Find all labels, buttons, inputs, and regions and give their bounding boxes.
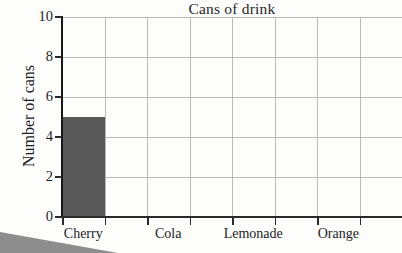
y-tick-mark bbox=[55, 16, 62, 18]
x-tick-label-orange: Orange bbox=[288, 226, 388, 242]
y-tick-mark bbox=[55, 176, 62, 178]
gridline-vertical bbox=[105, 17, 106, 217]
y-tick-mark bbox=[55, 216, 62, 218]
gridline-vertical bbox=[317, 17, 318, 217]
y-tick-label: 6 bbox=[13, 88, 53, 105]
x-tick-mark bbox=[62, 218, 64, 225]
x-tick-mark bbox=[190, 218, 192, 225]
y-tick-label: 10 bbox=[13, 8, 53, 25]
x-tick-mark bbox=[275, 218, 277, 225]
bar-cherry bbox=[62, 117, 105, 217]
chart-title: Cans of drink bbox=[62, 0, 402, 18]
y-tick-label: 4 bbox=[13, 128, 53, 145]
y-tick-label: 0 bbox=[13, 208, 53, 225]
x-tick-mark bbox=[360, 218, 362, 225]
plot-area bbox=[62, 17, 402, 217]
y-tick-label: 8 bbox=[13, 48, 53, 65]
x-tick-mark bbox=[317, 218, 319, 225]
bar-chart-screenshot: Cans of drink Number of cans 0246810 Che… bbox=[0, 0, 402, 253]
gridline-vertical bbox=[360, 17, 361, 217]
y-axis-line bbox=[61, 16, 63, 218]
x-tick-mark bbox=[105, 218, 107, 225]
gridline-vertical bbox=[190, 17, 191, 217]
gridline-vertical bbox=[232, 17, 233, 217]
x-tick-mark bbox=[147, 218, 149, 225]
y-tick-mark bbox=[55, 136, 62, 138]
y-tick-mark bbox=[55, 56, 62, 58]
gridline-vertical bbox=[275, 17, 276, 217]
y-tick-mark bbox=[55, 96, 62, 98]
y-tick-label: 2 bbox=[13, 168, 53, 185]
x-tick-mark bbox=[232, 218, 234, 225]
gridline-vertical bbox=[147, 17, 148, 217]
